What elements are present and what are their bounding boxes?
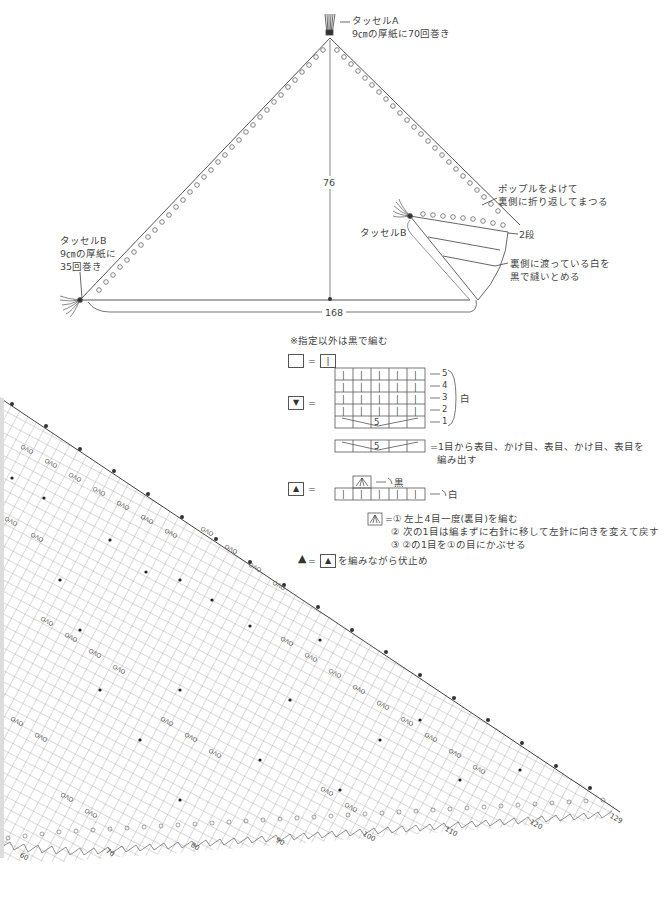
- knitting-chart-grid: OΛO OΛO OΛO OΛO OΛO OΛO OΛO OΛO OΛO OΛO …: [0, 0, 665, 905]
